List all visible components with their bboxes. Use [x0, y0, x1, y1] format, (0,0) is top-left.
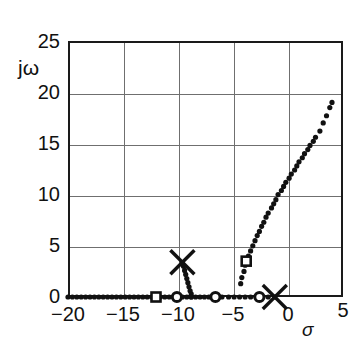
- gridline-vertical: [179, 43, 180, 295]
- gridline-horizontal: [70, 94, 341, 95]
- gridline-horizontal: [70, 196, 341, 197]
- gridline-vertical: [234, 43, 235, 295]
- x-axis-label: σ: [302, 320, 313, 339]
- x-tick-label: −10: [152, 304, 204, 324]
- plot-frame: [68, 41, 343, 297]
- gridline-vertical: [289, 43, 290, 295]
- x-tick-label: −20: [42, 304, 94, 324]
- y-tick-label: 15: [14, 133, 60, 153]
- y-axis-label: jω: [18, 57, 39, 78]
- gridline-horizontal: [70, 145, 341, 146]
- x-tick-label: 5: [317, 300, 363, 320]
- root-locus-figure: 25 20 15 10 5 0 jω −20 −15 −10 −5 0 5 σ: [0, 0, 363, 362]
- y-tick-label: 25: [14, 31, 60, 51]
- x-tick-label: −5: [207, 304, 259, 324]
- y-tick-label: 5: [14, 235, 60, 255]
- y-tick-label: 10: [14, 184, 60, 204]
- x-tick-label: −15: [97, 304, 149, 324]
- y-tick-label: 20: [14, 82, 60, 102]
- gridline-horizontal: [70, 247, 341, 248]
- gridline-vertical: [124, 43, 125, 295]
